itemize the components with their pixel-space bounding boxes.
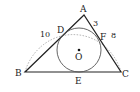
- label-d: D: [57, 25, 64, 35]
- dashed-arc: [25, 35, 121, 72]
- length-af: 3: [93, 19, 98, 28]
- geometry-diagram: A B C D E F O 10 8 3: [0, 0, 140, 92]
- label-b: B: [15, 68, 22, 78]
- label-c: C: [122, 69, 129, 79]
- label-o: O: [75, 52, 82, 62]
- length-ac: 8: [111, 31, 116, 40]
- length-ab: 10: [40, 30, 50, 39]
- label-f: F: [100, 32, 106, 42]
- triangle-abc: [25, 15, 121, 72]
- center-point: [78, 49, 81, 52]
- label-e: E: [75, 76, 82, 86]
- label-a: A: [79, 4, 87, 14]
